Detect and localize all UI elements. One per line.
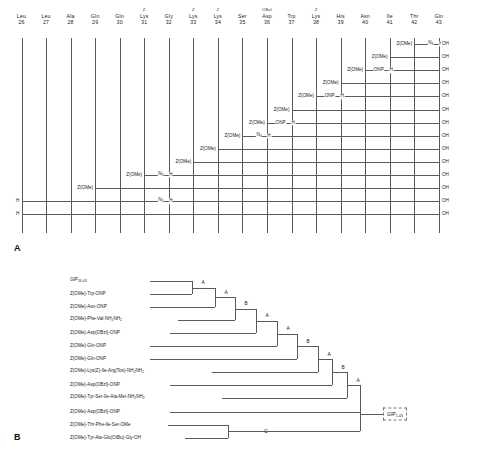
fragment-label: GIP26-43 — [70, 277, 87, 284]
n-terminal-protector-label: Z(OMe) — [77, 185, 94, 190]
connector-line — [277, 334, 297, 335]
protected-segment-line — [414, 44, 439, 45]
free-amine-label: H — [389, 67, 394, 72]
fragment-label: Z(OMe)-Tyr-Ser-Ile-Ala-Met-NH2NH2 — [70, 395, 145, 402]
protected-segment-line — [390, 57, 439, 58]
residue-column-line — [71, 38, 72, 233]
connector-line — [150, 281, 192, 282]
n-terminal-protector-label: Z(OMe) — [224, 133, 241, 138]
coupling-method-label: B — [244, 301, 247, 306]
fragment-label: Z(OMe)-Tyr-Ala-Glu(OtBu)-Gly-OH — [70, 435, 141, 440]
fragment-label: Z(OMe)-Lys(Z)-Ile-Arg(Tos)-NH2NH2 — [70, 369, 144, 376]
figure-root: Leu26 Leu27 Ala28 Gln29 Gln30ZLys31 Gly3… — [0, 0, 489, 454]
n-terminal-protector-label: Z(OMe) — [298, 94, 315, 99]
free-amine-label: H — [15, 198, 20, 203]
protected-segment-line — [218, 149, 439, 150]
c-terminal-label: OH — [441, 94, 449, 99]
c-terminal-label: OH — [441, 120, 449, 125]
c-terminal-label: OH — [441, 107, 449, 112]
protected-segment-line — [22, 201, 439, 202]
residue-column-line — [120, 38, 121, 233]
free-amine-label: H — [340, 94, 345, 99]
fragment-label: Z(OMe)-Asp(OBzl)-ONP — [70, 409, 120, 414]
protected-segment-line — [242, 136, 438, 137]
free-amine-label: H — [291, 120, 296, 125]
connector-line — [150, 359, 297, 360]
residue-column-line — [144, 38, 145, 233]
coupling-method-label: A — [356, 377, 359, 382]
fragment-label: Z(OMe)-Gln-ONP — [70, 344, 106, 349]
fragment-label: Z(OMe)-Asn-ONP — [70, 304, 107, 309]
activated-ester-label: ONP — [324, 94, 335, 99]
connector-line — [192, 288, 215, 289]
connector-line — [297, 346, 318, 347]
residue-column-line — [439, 38, 440, 233]
azide-label: N3 — [158, 197, 164, 204]
final-product-label: GIP1-43 — [383, 408, 407, 421]
panel-a-letter: A — [14, 243, 21, 253]
residue-column-line — [193, 38, 194, 233]
free-amine-label: H — [169, 198, 174, 203]
coupling-method-label: A — [265, 313, 268, 318]
c-terminal-label: OH — [441, 41, 449, 46]
residue-label-gln-43: Gln43 — [422, 8, 456, 25]
c-terminal-label: OH — [441, 54, 449, 59]
n-terminal-protector-label: Z(OMe) — [175, 159, 192, 164]
coupling-method-label: B — [341, 364, 344, 369]
c-terminal-label: OH — [441, 67, 449, 72]
c-terminal-label: OH — [441, 133, 449, 138]
c-terminal-label: OH — [441, 172, 449, 177]
free-amine-label: H — [15, 212, 20, 217]
connector-line — [332, 372, 347, 373]
coupling-method-label: A — [286, 326, 289, 331]
protected-segment-line — [144, 175, 439, 176]
connector-line — [178, 320, 235, 321]
connector-line — [168, 425, 228, 426]
protected-segment-line — [22, 214, 439, 215]
coupling-method-label: A — [201, 280, 204, 285]
coupling-method-label: A — [327, 351, 330, 356]
azide-label: N3 — [256, 132, 262, 139]
connector-line — [235, 309, 256, 310]
connector-line — [360, 414, 383, 415]
connector-line — [222, 398, 347, 399]
residue-column-line — [22, 38, 23, 233]
c-terminal-label: OH — [441, 198, 449, 203]
free-amine-label: H — [267, 133, 272, 138]
connector-line — [170, 412, 360, 413]
connector-line — [347, 385, 360, 386]
c-terminal-label: OH — [441, 159, 449, 164]
panel-b-letter: B — [14, 432, 21, 442]
protected-segment-line — [341, 83, 439, 84]
residue-number: 43 — [422, 19, 456, 25]
connector-line — [150, 346, 277, 347]
connector-line — [215, 297, 235, 298]
n-terminal-protector-label: Z(OMe) — [396, 41, 413, 46]
c-terminal-label: OH — [441, 146, 449, 151]
residue-column-line — [46, 38, 47, 233]
connector-line — [185, 438, 228, 439]
n-terminal-protector-label: Z(OMe) — [248, 120, 265, 125]
panel-a: Leu26 Leu27 Ala28 Gln29 Gln30ZLys31 Gly3… — [0, 0, 489, 258]
c-terminal-label: OH — [441, 185, 449, 190]
fragment-label: Z(OMe)-Gln-ONP — [70, 357, 106, 362]
free-amine-label: H — [169, 172, 174, 177]
n-terminal-protector-label: Z(OMe) — [322, 81, 339, 86]
azide-label: N3 — [158, 171, 164, 178]
fragment-label: Z(OMe)-Asp(OBzl)-ONP — [70, 383, 120, 388]
activated-ester-label: ONP — [373, 67, 384, 72]
n-terminal-protector-label: Z(OMe) — [371, 54, 388, 59]
n-terminal-protector-label: Z(OMe) — [347, 67, 364, 72]
residue-column-line — [95, 38, 96, 233]
connector-line — [150, 294, 192, 295]
protected-segment-line — [193, 162, 439, 163]
n-terminal-protector-label: Z(OMe) — [199, 146, 216, 151]
protected-segment-line — [95, 188, 439, 189]
connector-line — [170, 385, 332, 386]
fragment-label: Z(OMe)-Phe-Val-NH2NH2 — [70, 316, 122, 323]
protected-segment-line — [292, 110, 439, 111]
fragment-label: Z(OMe)-Thr-Phe-Ile-Ser-OMe — [70, 422, 131, 427]
azide-label: N3 — [428, 40, 434, 47]
connector-line — [256, 321, 277, 322]
connector-line — [170, 333, 256, 334]
